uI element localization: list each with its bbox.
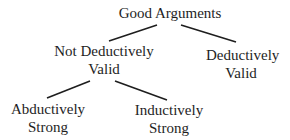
node-label-line2: Strong (10, 118, 86, 136)
node-label-line2: Valid (52, 60, 156, 78)
node-label-line1: Deductively (206, 46, 276, 64)
node-not-deductively-valid: Not Deductively Valid (52, 42, 156, 78)
edge-root-to-deductive (181, 25, 236, 42)
node-label-line2: Strong (134, 119, 204, 137)
node-deductively-valid: Deductively Valid (206, 46, 276, 82)
edge-not-deductive-to-inductive (115, 81, 167, 100)
node-inductively-strong: Inductively Strong (134, 101, 204, 137)
node-label-line1: Inductively (134, 101, 204, 119)
node-good-arguments: Good Arguments (118, 4, 222, 22)
edge-not-deductive-to-abductive (47, 81, 90, 98)
edge-root-to-not-deductive (109, 25, 157, 41)
node-label: Good Arguments (119, 5, 222, 21)
node-abductively-strong: Abductively Strong (10, 100, 86, 136)
node-label-line1: Abductively (10, 100, 86, 118)
node-label-line2: Valid (206, 64, 276, 82)
node-label-line1: Not Deductively (52, 42, 156, 60)
